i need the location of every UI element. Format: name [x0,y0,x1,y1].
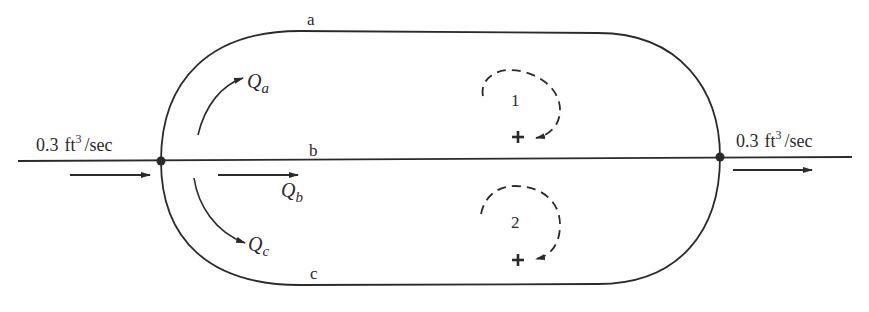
pipe-c-line [161,157,720,285]
pipe-a-label: a [307,10,315,29]
outflow-rate-label: 0.3ft3/sec [736,128,812,151]
loop-2-label: 2 [511,213,520,232]
flow-qb-label: Qb [281,179,303,205]
pipe-a-line [161,31,720,161]
pipe-c-label: c [310,264,318,283]
loop-1-arrow-icon [483,70,560,138]
flow-qc-label: Qc [248,233,269,259]
loop-2-arrow-icon [481,186,560,259]
flow-qa-label: Qa [247,70,269,96]
pipe-b-label: b [309,141,318,160]
flow-qc-arrow-icon [194,178,245,243]
loop-1-label: 1 [511,91,520,110]
flow-qa-arrow-icon [198,78,243,135]
pipe-b-line [18,157,852,161]
loop-1-plus-icon [512,131,524,143]
left-junction-node [157,157,166,166]
pipe-network-diagram: a b c 1 2 Qa Qb Qc 0.3ft3/sec 0.3ft3/sec [0,0,869,312]
inflow-rate-label: 0.3ft3/sec [36,132,112,155]
loop-2-plus-icon [512,254,524,266]
right-junction-node [716,153,725,162]
